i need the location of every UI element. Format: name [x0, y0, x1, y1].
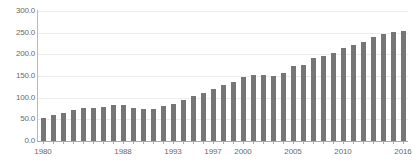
x-axis-tick-labels: 19801988199319972000200520102016: [0, 141, 412, 166]
y-axis-tick-label: 200.0: [2, 50, 35, 58]
bar: [41, 118, 46, 141]
x-axis-tick-mark: [223, 141, 224, 144]
x-axis-tick-mark: [163, 141, 164, 144]
x-axis-tick-mark: [263, 141, 264, 144]
x-axis-tick-mark: [93, 141, 94, 144]
bar: [261, 75, 266, 141]
x-axis-tick-label: 1997: [204, 147, 221, 156]
x-axis-tick-mark: [133, 141, 134, 144]
bar: [191, 96, 196, 141]
x-axis-tick-mark: [313, 141, 314, 144]
bar: [271, 76, 276, 141]
x-axis-tick-mark: [103, 141, 104, 144]
bar: [201, 93, 206, 141]
x-axis-tick-mark: [303, 141, 304, 144]
bar: [101, 107, 106, 141]
bar: [121, 105, 126, 141]
x-axis-tick-mark: [293, 141, 294, 144]
x-axis-tick-mark: [403, 141, 404, 144]
bar: [51, 115, 56, 141]
x-axis-tick-mark: [283, 141, 284, 144]
x-axis-tick-mark: [333, 141, 334, 144]
bar: [131, 108, 136, 141]
bar: [151, 109, 156, 142]
bar: [351, 45, 356, 141]
x-axis-tick-mark: [43, 141, 44, 144]
x-axis-tick-label: 1993: [164, 147, 181, 156]
bar: [301, 65, 306, 141]
y-axis-tick-label: 100.0: [2, 94, 35, 102]
x-axis-tick-mark: [153, 141, 154, 144]
bar-chart: 300.0250.0200.0150.0100.050.00.0 1980198…: [0, 0, 412, 166]
bar: [141, 109, 146, 142]
x-axis-tick-mark: [233, 141, 234, 144]
x-axis-tick-mark: [243, 141, 244, 144]
bar: [241, 77, 246, 141]
bar: [181, 100, 186, 141]
x-axis-tick-mark: [253, 141, 254, 144]
x-axis-tick-mark: [323, 141, 324, 144]
x-axis-tick-mark: [273, 141, 274, 144]
y-axis-tick-label: 250.0: [2, 29, 35, 37]
bar: [381, 34, 386, 141]
bar: [361, 42, 366, 141]
bar: [171, 104, 176, 141]
x-axis-tick-mark: [53, 141, 54, 144]
bar-series: [38, 11, 408, 141]
bar: [81, 108, 86, 141]
x-axis-tick-label: 1988: [114, 147, 131, 156]
x-axis-tick-mark: [113, 141, 114, 144]
bar: [111, 105, 116, 141]
bar: [91, 108, 96, 141]
bar: [251, 75, 256, 141]
x-axis-tick-mark: [363, 141, 364, 144]
bar: [61, 113, 66, 141]
bar: [311, 58, 316, 141]
bar: [281, 73, 286, 141]
x-axis-tick-mark: [73, 141, 74, 144]
x-axis-tick-label: 2000: [234, 147, 251, 156]
x-axis-tick-label: 2010: [334, 147, 351, 156]
x-axis-tick-mark: [383, 141, 384, 144]
x-axis-tick-mark: [213, 141, 214, 144]
x-axis-tick-mark: [83, 141, 84, 144]
bar: [71, 110, 76, 141]
y-axis-tick-label: 150.0: [2, 72, 35, 80]
x-axis-tick-mark: [173, 141, 174, 144]
x-axis-tick-mark: [343, 141, 344, 144]
x-axis-tick-label: 2016: [394, 147, 411, 156]
x-axis-tick-mark: [203, 141, 204, 144]
plot-area: [38, 11, 408, 141]
bar: [161, 106, 166, 141]
x-axis-tick-label: 2005: [284, 147, 301, 156]
y-axis-tick-label: 50.0: [2, 115, 35, 123]
bar: [211, 89, 216, 141]
y-axis-tick-label: 300.0: [2, 7, 35, 15]
x-axis-tick-mark: [353, 141, 354, 144]
x-axis-tick-mark: [183, 141, 184, 144]
bar: [331, 53, 336, 141]
x-axis-tick-mark: [393, 141, 394, 144]
bar: [291, 66, 296, 141]
bar: [401, 31, 406, 141]
x-axis-tick-mark: [193, 141, 194, 144]
bar: [231, 82, 236, 141]
bar: [221, 85, 226, 141]
x-axis-tick-mark: [123, 141, 124, 144]
bar: [341, 48, 346, 141]
x-axis-tick-mark: [143, 141, 144, 144]
x-axis-tick-mark: [373, 141, 374, 144]
bar: [391, 32, 396, 141]
bar: [321, 56, 326, 141]
bar: [371, 37, 376, 141]
x-axis-tick-mark: [63, 141, 64, 144]
x-axis-tick-label: 1980: [34, 147, 51, 156]
